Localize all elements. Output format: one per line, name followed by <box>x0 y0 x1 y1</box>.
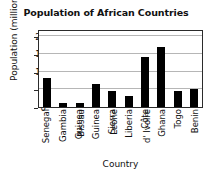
bar-slot <box>55 31 71 107</box>
x-tick-label: Liberia <box>125 109 134 138</box>
x-tick-label-group: Liberia <box>121 109 138 157</box>
bar-slot <box>153 31 169 107</box>
bar-sierra-leone <box>108 91 116 107</box>
x-axis-tick-labels: SenegalGambiaGuineaBissauGuineaSierraLeo… <box>38 109 203 157</box>
bar-guinea-bissau <box>76 103 84 107</box>
x-tick-label-group: Côted' Ivoire <box>137 109 154 157</box>
bar-slot <box>104 31 120 107</box>
bar-series <box>39 31 202 107</box>
bar-benin <box>190 89 198 107</box>
x-tick-label: Bissau <box>76 109 85 137</box>
x-tick-label: Togo <box>174 109 183 129</box>
plot-area <box>38 30 203 108</box>
x-tick-label: Guinea <box>92 109 101 139</box>
x-tick-label: Gambia <box>59 109 68 142</box>
bar-liberia <box>125 96 133 107</box>
bar-togo <box>174 91 182 107</box>
x-tick-label: d' Ivoire <box>142 109 151 143</box>
x-tick-label: Benin <box>191 109 200 133</box>
x-tick-label: Senegal <box>42 109 51 143</box>
x-tick-label-group: SierraLeone <box>104 109 121 157</box>
bar-chart: Population of African Countries Populati… <box>0 0 212 176</box>
x-tick-label-group: Senegal <box>38 109 55 157</box>
x-tick-label-group: Gambia <box>55 109 72 157</box>
x-axis-title: Country <box>38 159 203 169</box>
y-axis-title: Population (millions) <box>9 0 19 85</box>
x-tick-label-group: Ghana <box>154 109 171 157</box>
x-tick-label-group: Togo <box>170 109 187 157</box>
bar-c-te-d-ivoire <box>141 57 149 107</box>
bar-ghana <box>157 47 165 107</box>
bar-slot <box>72 31 88 107</box>
x-tick-label-group: GuineaBissau <box>71 109 88 157</box>
bar-slot <box>137 31 153 107</box>
chart-title: Population of African Countries <box>0 7 212 18</box>
bar-guinea <box>92 84 100 107</box>
bar-slot <box>120 31 136 107</box>
x-tick-label: Leone <box>109 109 118 135</box>
x-tick-label-group: Guinea <box>88 109 105 157</box>
bar-slot <box>39 31 55 107</box>
bar-senegal <box>43 78 51 107</box>
x-tick-label: Ghana <box>158 109 167 137</box>
bar-slot <box>169 31 185 107</box>
bar-slot <box>186 31 202 107</box>
bar-slot <box>88 31 104 107</box>
x-tick-label-group: Benin <box>187 109 204 157</box>
bar-gambia <box>59 103 67 107</box>
